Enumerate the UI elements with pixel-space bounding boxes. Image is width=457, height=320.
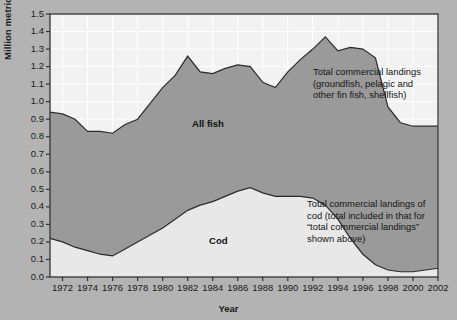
chart-container: Million metric tonnes (live weight) 0.00… [0,0,457,320]
cod-label: Cod [209,235,228,246]
x-axis-title: Year [0,303,457,314]
chart-plot-area [0,0,457,320]
total-commercial-landings-note: Total commercial landings (groundfish, p… [313,66,421,101]
all-fish-label: All fish [192,118,224,129]
cod-landings-note: Total commercial landings of cod (total … [307,198,425,244]
